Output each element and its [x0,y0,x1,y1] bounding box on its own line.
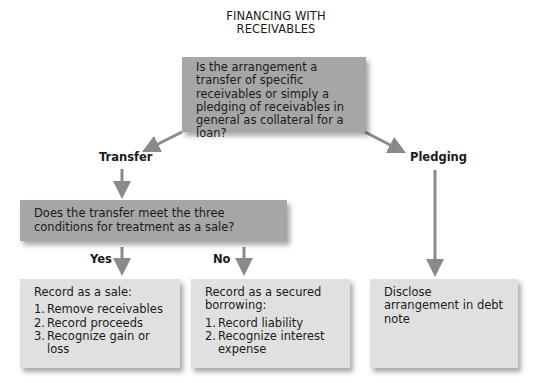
step-item: 3.Recognize gain or loss [34,330,172,357]
arrow-to-pledging [365,132,398,149]
diagram-title: FINANCING WITH RECEIVABLES [206,10,346,36]
outcome-heading: Record as a secured borrowing: [205,286,342,313]
outcome-heading: Record as a sale: [34,286,172,299]
question-text: Does the transfer meet the three conditi… [34,206,234,234]
outcome-disclose-pledging: Disclose arrangement in debt note [370,279,518,368]
step-item: 2.Record proceeds [34,317,172,330]
step-item: 1.Remove receivables [34,303,172,316]
step-item: 2.Recognize interest expense [205,330,342,357]
arrow-to-transfer [150,132,182,148]
transfer-or-pledge-question: Is the arrangement a transfer of specifi… [182,57,366,132]
question-text: Is the arrangement a transfer of specifi… [196,60,344,140]
step-item: 1.Record liability [205,317,342,330]
answer-label-no: No [213,252,231,266]
branch-label-pledging: Pledging [410,150,467,164]
answer-label-yes: Yes [90,252,112,266]
outcome-heading: Disclose arrangement in debt note [384,286,510,326]
outcome-steps: 1.Record liability 2.Recognize interest … [205,317,342,357]
outcome-record-as-sale: Record as a sale: 1.Remove receivables 2… [20,279,180,368]
sale-conditions-question: Does the transfer meet the three conditi… [20,200,287,241]
outcome-secured-borrowing: Record as a secured borrowing: 1.Record … [191,279,350,368]
branch-label-transfer: Transfer [99,150,153,164]
outcome-steps: 1.Remove receivables 2.Record proceeds 3… [34,303,172,356]
